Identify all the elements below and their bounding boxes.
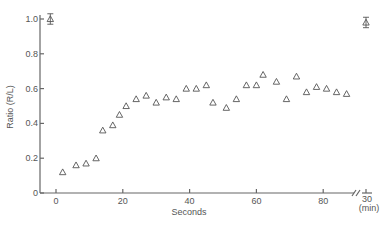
triangle-marker	[233, 96, 239, 102]
triangle-marker	[153, 99, 159, 105]
triangle-marker	[273, 78, 279, 84]
triangle-marker	[83, 160, 89, 166]
x-tick-unit-min: (min)	[359, 203, 380, 213]
x-tick-label: 20	[118, 196, 128, 206]
x-tick-label: 60	[251, 196, 261, 206]
triangle-marker	[133, 96, 139, 102]
triangle-marker	[59, 169, 65, 175]
x-tick-label: 0	[53, 196, 58, 206]
triangle-marker	[283, 96, 289, 102]
y-tick-label: 0.8	[25, 49, 38, 59]
triangle-marker	[183, 85, 189, 91]
data-points	[47, 14, 369, 175]
triangle-marker	[260, 71, 266, 77]
triangle-marker	[73, 162, 79, 168]
triangle-marker	[313, 84, 319, 90]
triangle-marker	[210, 99, 216, 105]
triangle-marker	[293, 73, 299, 79]
y-tick-label: 0.2	[25, 153, 38, 163]
triangle-marker	[116, 112, 122, 118]
ratio-chart: 00.20.40.60.81.002040608030(min) Ratio (…	[0, 0, 388, 227]
triangle-marker	[253, 82, 259, 88]
triangle-marker	[243, 82, 249, 88]
chart-axes: 00.20.40.60.81.002040608030(min)	[25, 14, 379, 213]
triangle-marker	[303, 89, 309, 95]
triangle-marker	[343, 91, 349, 97]
x-axis-title: Seconds	[171, 207, 207, 217]
x-tick-label: 40	[185, 196, 195, 206]
y-tick-label: 0	[33, 188, 38, 198]
triangle-marker	[223, 105, 229, 111]
y-axis-title: Ratio (R/L)	[5, 85, 15, 129]
triangle-marker	[100, 127, 106, 133]
y-tick-label: 1.0	[25, 14, 38, 24]
y-tick-label: 0.4	[25, 118, 38, 128]
x-tick-label: 80	[318, 196, 328, 206]
y-tick-label: 0.6	[25, 84, 38, 94]
triangle-marker	[193, 85, 199, 91]
triangle-marker	[93, 155, 99, 161]
triangle-marker	[123, 103, 129, 109]
triangle-marker	[323, 85, 329, 91]
triangle-marker	[203, 82, 209, 88]
triangle-marker	[173, 96, 179, 102]
triangle-marker	[163, 94, 169, 100]
triangle-marker	[143, 92, 149, 98]
triangle-marker	[110, 122, 116, 128]
triangle-marker	[333, 89, 339, 95]
axis-break-mark	[356, 190, 360, 196]
